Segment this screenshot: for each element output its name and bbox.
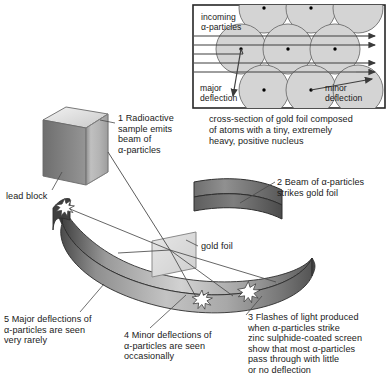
callout-step-3: 3 Flashes of light produced when α-parti… <box>248 312 389 376</box>
lead-block <box>43 107 108 185</box>
gold-foil-label: gold foil <box>201 241 261 252</box>
callout-step-1: 1 Radioactive sample emits beam of α-par… <box>118 113 204 155</box>
band-right-end-cap <box>312 258 315 276</box>
inset-major-deflection-label: major deflection <box>200 83 262 103</box>
rutherford-scattering-figure: incoming α-particles major deflection mi… <box>0 0 389 379</box>
inset-caption: cross-section of gold foil composed of a… <box>209 114 389 148</box>
callout-step-4: 4 Minor deflections of α-particles are s… <box>124 330 238 362</box>
lead-block-label: lead block <box>6 191 72 202</box>
callout-step-5: 5 Major deflections of α-particles are s… <box>4 314 122 346</box>
callout-step-2: 2 Beam of α-particles strikes gold foil <box>277 177 389 198</box>
alpha-beam-line <box>108 152 170 250</box>
inset-incoming-label: incoming α-particles <box>201 12 275 32</box>
inset-minor-deflection-label: minor deflection <box>325 83 387 103</box>
gold-foil <box>152 232 196 277</box>
screen-band-upper-segment <box>194 179 282 219</box>
